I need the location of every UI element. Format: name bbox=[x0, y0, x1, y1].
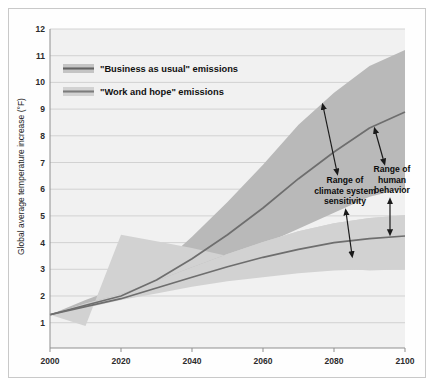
y-tick-12: 12 bbox=[36, 24, 46, 34]
legend-label-work-and-hope: "Work and hope" emissions bbox=[100, 87, 224, 97]
annotation-climate-line-1: Range of bbox=[327, 175, 364, 185]
y-tick-6: 6 bbox=[40, 184, 45, 194]
annotation-climate-line-2: climate system bbox=[314, 186, 376, 196]
x-tick-2020: 2020 bbox=[112, 356, 131, 366]
y-tick-5: 5 bbox=[40, 211, 45, 221]
y-axis-tick-labels: 12 11 10 9 8 7 6 5 4 3 2 1 bbox=[36, 24, 46, 328]
y-tick-2: 2 bbox=[40, 291, 45, 301]
annotation-human-line-3: behavior bbox=[374, 185, 410, 195]
y-tick-10: 10 bbox=[36, 77, 46, 87]
x-axis-ticks bbox=[50, 348, 405, 352]
y-axis-title: Global average temperature increase (°F) bbox=[16, 98, 26, 255]
x-tick-2100: 2100 bbox=[396, 356, 415, 366]
x-tick-2060: 2060 bbox=[254, 356, 273, 366]
y-tick-1: 1 bbox=[40, 318, 45, 328]
annotation-human-line-2: human bbox=[378, 175, 406, 185]
climate-projection-chart: 12 11 10 9 8 7 6 5 4 3 2 1 2000 2020 204… bbox=[0, 0, 436, 387]
y-tick-9: 9 bbox=[40, 104, 45, 114]
legend-label-business-as-usual: "Business as usual" emissions bbox=[100, 64, 238, 74]
x-tick-2080: 2080 bbox=[325, 356, 344, 366]
y-tick-8: 8 bbox=[40, 131, 45, 141]
x-tick-2000: 2000 bbox=[41, 356, 60, 366]
chart-screenshot: 12 11 10 9 8 7 6 5 4 3 2 1 2000 2020 204… bbox=[0, 0, 436, 387]
y-tick-7: 7 bbox=[40, 158, 45, 168]
x-axis-tick-labels: 2000 2020 2040 2060 2080 2100 bbox=[41, 356, 415, 366]
annotation-climate-line-3: sensitivity bbox=[324, 196, 366, 206]
y-tick-11: 11 bbox=[36, 51, 45, 61]
x-tick-2040: 2040 bbox=[183, 356, 202, 366]
annotation-human-line-1: Range of bbox=[374, 164, 411, 174]
y-tick-3: 3 bbox=[40, 264, 45, 274]
y-tick-4: 4 bbox=[40, 238, 45, 248]
